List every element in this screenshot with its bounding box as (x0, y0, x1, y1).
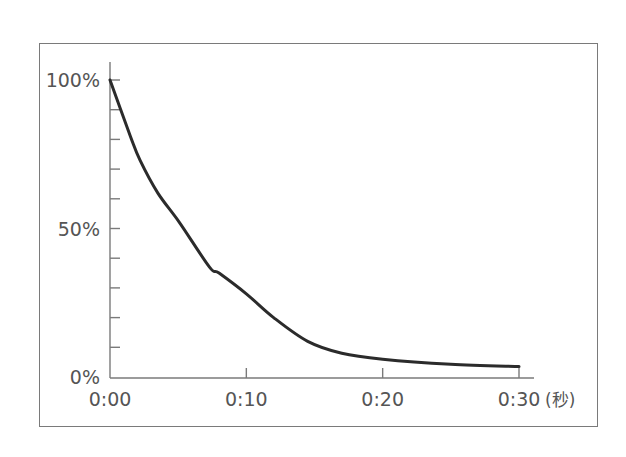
y-tick-label-0: 0% (20, 368, 100, 387)
x-tick-label-10: 0:10 (206, 390, 286, 409)
y-tick-label-50: 50% (20, 220, 100, 239)
decay-curve (110, 80, 519, 367)
axes (110, 62, 534, 378)
x-tick-label-0: 0:00 (70, 390, 150, 409)
x-unit-label: (秒) (545, 392, 575, 409)
x-tick-label-20: 0:20 (343, 390, 423, 409)
y-tick-label-100: 100% (20, 71, 100, 90)
